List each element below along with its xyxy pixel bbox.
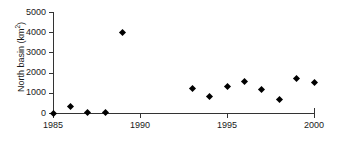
x-axis-tick-label: 1995 xyxy=(209,121,245,130)
y-axis-tick-label: 2000 xyxy=(26,68,46,77)
x-axis-tick-label: 2000 xyxy=(296,121,332,130)
data-point xyxy=(49,109,56,116)
y-axis-tick-label: 4000 xyxy=(26,28,46,37)
x-axis-tick-label: 1990 xyxy=(122,121,158,130)
data-point xyxy=(223,83,230,90)
data-point xyxy=(189,85,196,92)
data-point xyxy=(206,93,213,100)
data-point xyxy=(67,103,74,110)
x-axis-tick xyxy=(314,113,315,118)
data-point xyxy=(258,86,265,93)
y-axis-tick-label: 5000 xyxy=(26,8,46,17)
data-point xyxy=(119,29,126,36)
data-point xyxy=(276,96,283,103)
y-axis-tick-label: 1000 xyxy=(26,88,46,97)
data-point xyxy=(102,109,109,116)
x-axis-tick-label: 1985 xyxy=(35,121,71,130)
data-point xyxy=(310,79,317,86)
x-axis-line xyxy=(53,113,315,114)
plot-area xyxy=(53,12,314,113)
x-axis-tick xyxy=(140,113,141,118)
chart-screenshot: North basin (km2) 010002000300040005000 … xyxy=(0,0,337,151)
y-axis-tick-label: 0 xyxy=(41,109,46,118)
data-point xyxy=(241,78,248,85)
y-axis-tick-label: 3000 xyxy=(26,48,46,57)
data-point xyxy=(293,75,300,82)
data-point xyxy=(84,109,91,116)
x-axis-tick xyxy=(227,113,228,118)
